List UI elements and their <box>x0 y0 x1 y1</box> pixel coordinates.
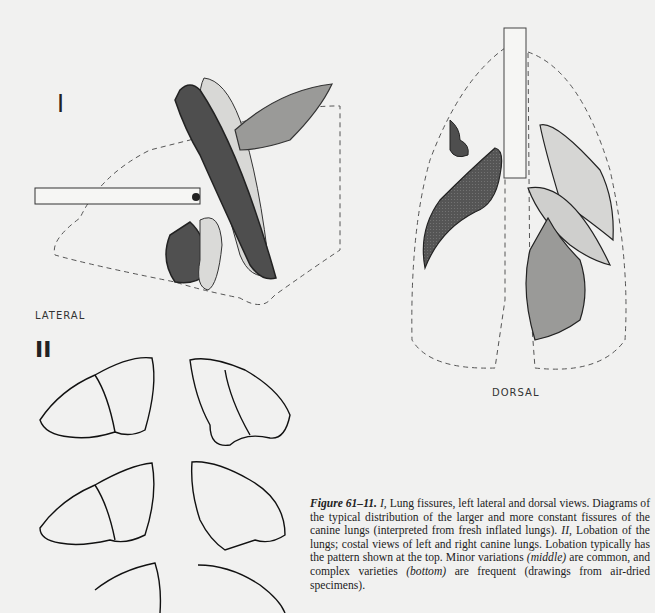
left-cranial-lobe-dorsal <box>450 120 468 157</box>
trachea-lateral <box>35 188 200 204</box>
accessory-lobe-lateral <box>199 218 222 290</box>
part2-marker: II, <box>561 524 572 537</box>
bronchus-dot <box>192 193 200 201</box>
figure-number: Figure 61–11. <box>310 497 377 510</box>
left-caudal-lobe-dorsal <box>423 148 501 268</box>
trachea-dorsal <box>504 28 526 178</box>
lobation-diagrams <box>40 358 290 613</box>
figure-caption: Figure 61–11. I, Lung fissures, left lat… <box>310 497 650 592</box>
part1-marker: I, <box>380 497 387 510</box>
bottom-note: (bottom) <box>406 565 446 578</box>
upper-lobe-lateral <box>235 84 332 150</box>
middle-note: (middle) <box>527 551 566 564</box>
